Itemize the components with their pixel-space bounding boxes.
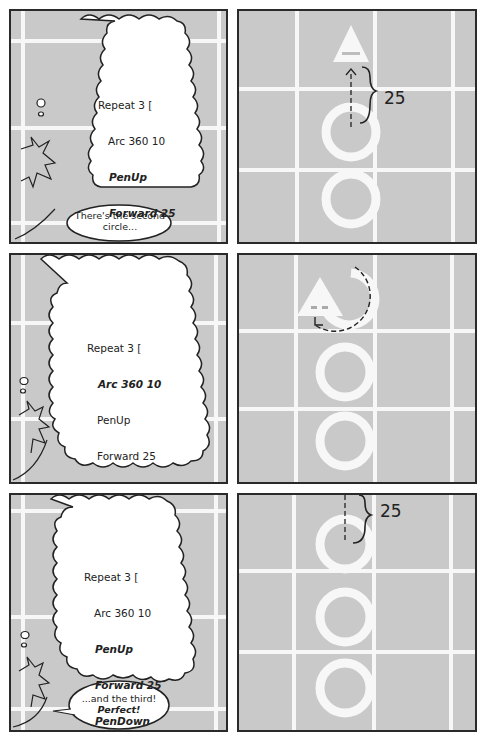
code-line-highlighted: PenUp [98,171,175,183]
panel-2-thought: Repeat 3 [ Arc 360 10 PenUp Forward 25 P… [9,253,228,484]
caption-line: ...and the third! [73,693,165,704]
panel-2-canvas [237,253,477,484]
caption-line: circle... [71,221,169,232]
code-line: Arc 360 10 [98,135,175,147]
panel-3-thought: Repeat 3 [ Arc 360 10 PenUp Forward 25 P… [9,493,228,732]
turtle-canvas [239,255,477,484]
turtle-icon [297,277,343,316]
code-block: Repeat 3 [ Arc 360 10 PenUp Forward 25 P… [87,318,161,484]
code-line-highlighted: PenDown [98,243,175,244]
code-line: Forward 25 [87,450,161,462]
code-line: Repeat 3 [ [98,99,175,111]
code-line: Arc 360 10 [84,607,161,619]
code-line: Repeat 3 [ [87,342,161,354]
distance-label: 25 [380,501,402,521]
turtle-canvas [239,495,477,732]
caption-line-emphasis: Perfect! [73,704,165,715]
turtle-icon [333,25,369,62]
panel-1-thought: Repeat 3 [ Arc 360 10 PenUp Forward 25 P… [9,9,228,244]
code-line-highlighted: Forward 25 [84,679,161,691]
code-line-highlighted: PenUp [84,643,161,655]
panel-3-canvas: 25 [237,493,477,732]
turtle-canvas [239,11,477,244]
code-line: Repeat 3 [ [84,571,161,583]
code-line-highlighted: Arc 360 10 [87,378,161,390]
code-line: PenUp [87,414,161,426]
caption-line: There's the second [71,210,169,221]
speech-caption: ...and the third! Perfect! [73,693,165,715]
speech-caption: There's the second circle... [71,210,169,232]
code-line-highlighted: PenDown [84,715,161,727]
distance-label: 25 [384,88,406,108]
panel-1-canvas: 25 [237,9,477,244]
